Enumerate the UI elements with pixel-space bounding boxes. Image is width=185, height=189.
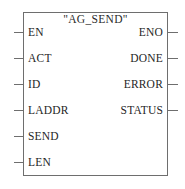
- pin-label-en: EN: [28, 26, 44, 38]
- pin-label-id: ID: [28, 78, 41, 90]
- pin-label-eno: ENO: [139, 26, 163, 38]
- pin-connector-status[interactable]: [167, 110, 178, 111]
- pin-label-done: DONE: [130, 52, 163, 64]
- pin-connector-eno[interactable]: [167, 32, 178, 33]
- pin-connector-error[interactable]: [167, 84, 178, 85]
- function-block-diagram-canvas: "AG_SEND" ENACTIDLADDRSENDLEN ENODONEERR…: [0, 0, 185, 189]
- pin-connector-id[interactable]: [14, 84, 24, 85]
- pin-label-len: LEN: [28, 156, 51, 168]
- pin-connector-done[interactable]: [167, 58, 178, 59]
- pin-connector-len[interactable]: [14, 162, 24, 163]
- pin-connector-send[interactable]: [14, 136, 24, 137]
- pin-label-laddr: LADDR: [28, 104, 69, 116]
- pin-label-error: ERROR: [124, 78, 163, 90]
- pin-label-act: ACT: [28, 52, 52, 64]
- pin-connector-laddr[interactable]: [14, 110, 24, 111]
- pin-connector-en[interactable]: [14, 32, 24, 33]
- pin-connector-act[interactable]: [14, 58, 24, 59]
- pin-label-send: SEND: [28, 130, 59, 142]
- function-block-title: "AG_SEND": [23, 13, 168, 26]
- pin-label-status: STATUS: [121, 104, 163, 116]
